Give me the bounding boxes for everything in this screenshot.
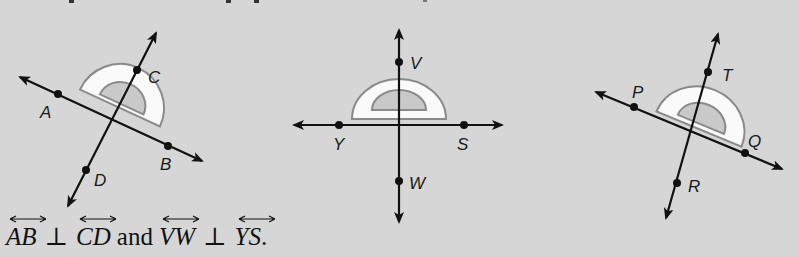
label-C: C bbox=[148, 68, 161, 87]
double-arrow-icon bbox=[237, 215, 277, 223]
double-arrow-icon bbox=[78, 215, 118, 223]
point-P bbox=[630, 103, 638, 111]
point-T bbox=[704, 68, 712, 76]
point-Y bbox=[335, 121, 343, 129]
line-name: YS bbox=[235, 223, 261, 250]
figure-2: V W Y S bbox=[294, 30, 502, 222]
label-V: V bbox=[410, 54, 423, 73]
point-S bbox=[460, 121, 468, 129]
figure-1: A B C D bbox=[20, 33, 202, 206]
point-B bbox=[164, 142, 172, 150]
cropped-text-remnants bbox=[69, 0, 427, 3]
line-name: VW bbox=[159, 223, 195, 250]
label-T: T bbox=[722, 66, 734, 85]
line-name: CD bbox=[76, 223, 111, 250]
label-A: A bbox=[39, 103, 51, 122]
perpendicular-symbol: ⊥ bbox=[203, 223, 227, 250]
perpendicular-lines-figure: A B C D V W Y S P Q T R bbox=[0, 0, 799, 257]
point-D bbox=[82, 166, 90, 174]
label-B: B bbox=[160, 155, 171, 174]
line-notation-AB: AB bbox=[6, 222, 37, 252]
label-S: S bbox=[457, 135, 469, 154]
double-arrow-icon bbox=[8, 215, 48, 223]
line-notation-CD: CD bbox=[76, 222, 111, 252]
label-R: R bbox=[688, 177, 700, 196]
label-D: D bbox=[94, 171, 106, 190]
double-arrow-icon bbox=[161, 215, 201, 223]
conjunction: and bbox=[117, 223, 153, 250]
point-C bbox=[133, 66, 141, 74]
line-name: AB bbox=[6, 223, 37, 250]
label-Y: Y bbox=[333, 135, 346, 154]
label-W: W bbox=[409, 174, 427, 193]
point-A bbox=[54, 90, 62, 98]
label-P: P bbox=[632, 83, 644, 102]
protractor-icon bbox=[657, 73, 758, 147]
line-notation-YS: YS bbox=[235, 222, 261, 252]
point-R bbox=[673, 179, 681, 187]
point-V bbox=[395, 58, 403, 66]
figure-caption: AB ⊥ CD and VW ⊥ YS . bbox=[6, 222, 267, 252]
figure-3: P Q T R bbox=[596, 34, 782, 218]
line-notation-VW: VW bbox=[159, 222, 195, 252]
perpendicular-symbol: ⊥ bbox=[45, 223, 69, 250]
period: . bbox=[261, 223, 267, 250]
point-W bbox=[395, 177, 403, 185]
label-Q: Q bbox=[748, 132, 761, 151]
